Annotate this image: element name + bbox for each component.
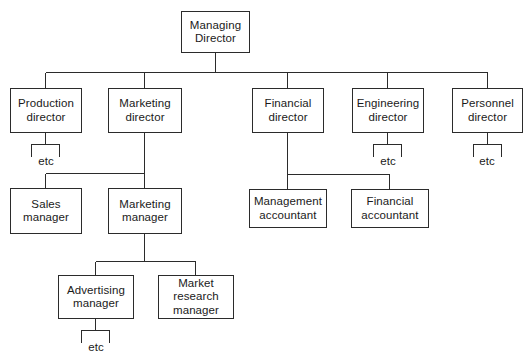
node-financial-accountant[interactable]: Financial accountant [351, 189, 429, 228]
node-label: Financial accountant [359, 195, 420, 222]
node-management-accountant[interactable]: Management accountant [249, 189, 327, 228]
node-sales-manager[interactable]: Sales manager [10, 188, 82, 234]
node-label: Market research manager [171, 277, 221, 318]
node-label: Marketing manager [117, 198, 172, 225]
node-label: Marketing director [117, 97, 172, 124]
node-managing-director[interactable]: Managing Director [181, 11, 250, 53]
node-production-director[interactable]: Production director [10, 88, 82, 133]
node-label: Managing Director [188, 19, 243, 46]
node-engineering-director[interactable]: Engineering director [352, 88, 424, 133]
node-label: Personnel director [459, 97, 516, 124]
node-marketing-manager[interactable]: Marketing manager [108, 188, 182, 234]
node-advertising-manager[interactable]: Advertising manager [58, 275, 134, 319]
node-label: Financial director [263, 97, 314, 124]
node-label: Production director [16, 97, 76, 124]
node-market-research-manager[interactable]: Market research manager [158, 275, 234, 319]
node-label: Advertising manager [65, 284, 127, 311]
node-marketing-director[interactable]: Marketing director [108, 88, 182, 133]
node-financial-director[interactable]: Financial director [252, 88, 324, 133]
etc-label-engineering: etc [368, 155, 408, 168]
etc-label-production: etc [26, 155, 66, 168]
node-label: Management accountant [252, 195, 324, 222]
node-personnel-director[interactable]: Personnel director [452, 88, 523, 133]
node-label: Sales manager [21, 198, 71, 225]
etc-label-advertising: etc [76, 341, 116, 354]
etc-label-personnel: etc [467, 155, 507, 168]
organisation-chart: Managing Director Production director Ma… [0, 0, 532, 364]
node-label: Engineering director [355, 97, 421, 124]
